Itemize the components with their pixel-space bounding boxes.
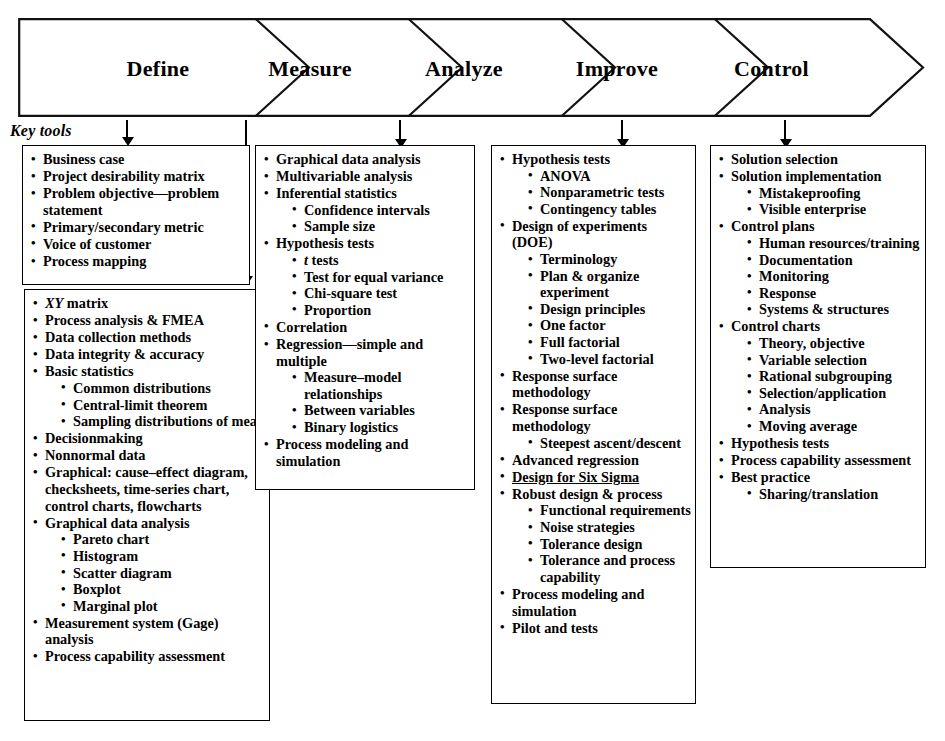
tool-item-label: Systems & structures [759,301,889,317]
tool-item-label: Voice of customer [43,236,245,253]
tool-subitem: Response [747,285,921,302]
tools-box-define-1: Business caseProject desirability matrix… [22,145,250,285]
tool-subitem: Nonparametric tests [528,184,691,201]
tool-item: Hypothesis testst testsTest for equal va… [264,235,470,318]
phase-label-improve: Improve [552,56,682,82]
tool-subitem: Chi-square test [292,285,470,302]
tool-item: Regression—simple and multipleMeasure–mo… [264,336,470,436]
tool-item-label: Response [759,285,816,301]
tool-subitem: Scatter diagram [61,565,265,582]
tool-item-label: Histogram [73,548,138,564]
tool-subitem: Human resources/training [747,235,921,252]
tool-item: Advanced regression [500,452,691,469]
tool-item-label: Sampling distributions of mean [73,413,265,429]
tool-subitem: Selection/application [747,385,921,402]
tool-item-label: Monitoring [759,268,829,284]
tool-subitem: Boxplot [61,581,265,598]
tool-list: Business caseProject desirability matrix… [23,146,249,274]
tool-item-label: Process capability assessment [731,452,921,469]
tool-item: Nonnormal data [33,447,265,464]
tool-item-label: Theory, objective [759,335,865,351]
tool-subitem: Monitoring [747,268,921,285]
tool-item: Pilot and tests [500,620,691,637]
tool-item-label: Process mapping [43,253,245,270]
tool-list: Graphical data analysisMultivariable ana… [256,146,474,474]
tools-box-measure: Graphical data analysisMultivariable ana… [255,145,475,490]
tool-item-label: Solution implementation [731,168,921,185]
tool-item: Correlation [264,319,470,336]
tool-item-label: Process modeling and simulation [512,586,691,619]
tool-subitem: One factor [528,317,691,334]
tool-item: Solution selection [719,151,921,168]
tool-item: Data integrity & accuracy [33,346,265,363]
tool-item-label: Steepest ascent/descent [540,435,681,451]
tool-subitem: Documentation [747,252,921,269]
tool-subitem: Terminology [528,251,691,268]
tool-subitem: Proportion [292,302,470,319]
tool-sublist: Steepest ascent/descent [512,435,691,452]
tool-item-label: Plan & organize experiment [540,268,639,301]
tool-item: Voice of customer [31,236,245,253]
tool-item-label: Nonnormal data [45,447,265,464]
tool-item: Solution implementationMistakeproofingVi… [719,168,921,218]
tool-item: Multivariable analysis [264,168,470,185]
tool-item-label: Sample size [304,218,375,234]
tool-subitem: Analysis [747,401,921,418]
key-tools-label: Key tools [10,122,72,140]
tool-subitem: Variable selection [747,352,921,369]
tool-sublist: t testsTest for equal varianceChi-square… [276,252,470,318]
tool-item-label: Boxplot [73,581,121,597]
tool-item-label: Human resources/training [759,235,919,251]
tool-item-label: Chi-square test [304,285,397,301]
tool-item-label: Full factorial [540,334,620,350]
tool-item-label: Central-limit theorem [73,397,207,413]
dmaic-phase-banner: Define Measure Analyze Improve Control [18,18,925,117]
tool-item-label: Measurement system (Gage) analysis [45,615,265,648]
phase-label-measure: Measure [240,56,380,82]
tool-item: Process modeling and simulation [264,436,470,469]
tool-item: XY matrix [33,295,265,312]
tool-item-label: Graphical data analysis [45,515,265,532]
tool-subitem: Confidence intervals [292,202,470,219]
tool-subitem: Binary logistics [292,419,470,436]
tool-subitem: Test for equal variance [292,269,470,286]
tool-item: Control plansHuman resources/trainingDoc… [719,218,921,318]
tool-item: Project desirability matrix [31,168,245,185]
tool-item-label: Business case [43,151,245,168]
tool-item: Process mapping [31,253,245,270]
tool-item: Process modeling and simulation [500,586,691,619]
tool-item-label: Nonparametric tests [540,184,664,200]
tool-item: Control chartsTheory, objectiveVariable … [719,318,921,434]
tool-item: Graphical: cause–effect diagram, checksh… [33,464,265,514]
tool-item-label: One factor [540,317,606,333]
tool-subitem: Sharing/translation [747,486,921,503]
tool-item-label: Graphical data analysis [276,151,470,168]
tool-item-label: Pilot and tests [512,620,691,637]
tool-item: Design of experiments (DOE)TerminologyPl… [500,218,691,367]
tool-item: Response surface methodologySteepest asc… [500,401,691,451]
tool-subitem: Central-limit theorem [61,397,265,414]
tool-item: Best practiceSharing/translation [719,469,921,502]
tool-item-label: Inferential statistics [276,185,470,202]
tool-subitem: Design principles [528,301,691,318]
tool-item-label: Graphical: cause–effect diagram, checksh… [45,464,265,514]
tools-box-control: Solution selectionSolution implementatio… [710,145,926,568]
tool-list: XY matrixProcess analysis & FMEAData col… [25,290,269,670]
tool-item-label: Data collection methods [45,329,265,346]
tool-item-label: Variable selection [759,352,867,368]
tool-subitem: Pareto chart [61,531,265,548]
tool-subitem: t tests [292,252,470,269]
tool-sublist: Measure–model relationshipsBetween varia… [276,369,470,435]
tool-item-label: Control plans [731,218,921,235]
tool-item-label: Common distributions [73,380,211,396]
tools-box-analyze: Hypothesis testsANOVANonparametric tests… [491,145,696,704]
tool-item-label: Test for equal variance [304,269,443,285]
tool-item-label: Process modeling and simulation [276,436,470,469]
dmaic-roadmap-diagram: Define Measure Analyze Improve Control K… [0,0,945,741]
tool-item: Business case [31,151,245,168]
tool-item-label: Response surface methodology [512,368,691,401]
tool-item-label: Process capability assessment [45,648,265,665]
tool-item: Measurement system (Gage) analysis [33,615,265,648]
tool-subitem: Theory, objective [747,335,921,352]
tool-item-label: Marginal plot [73,598,158,614]
